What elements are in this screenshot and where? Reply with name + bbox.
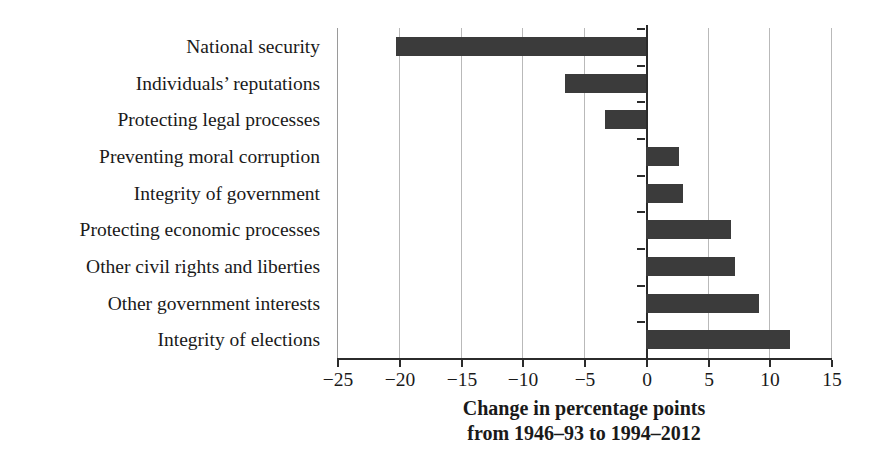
x-axis-title-line-2: from 1946–93 to 1994–2012 — [337, 421, 831, 446]
y-tick-mark — [637, 28, 645, 30]
x-tick-label: 15 — [802, 369, 862, 391]
x-tick-label: −10 — [493, 369, 553, 391]
bar — [646, 220, 731, 239]
category-label: Protecting legal processes — [0, 110, 320, 129]
x-tick-mark — [831, 360, 833, 367]
category-label-column: National securityIndividuals’ reputation… — [0, 28, 328, 358]
y-tick-mark — [637, 285, 645, 287]
y-tick-mark — [637, 101, 645, 103]
x-tick-label: −15 — [432, 369, 492, 391]
category-label: Other civil rights and liberties — [0, 257, 320, 276]
category-label: Integrity of elections — [0, 330, 320, 349]
x-tick-mark — [646, 360, 648, 367]
bar-chart-figure: National securityIndividuals’ reputation… — [0, 0, 873, 467]
y-tick-mark — [637, 248, 645, 250]
bar — [646, 147, 679, 166]
x-tick-label: −20 — [370, 369, 430, 391]
y-tick-mark — [637, 358, 645, 360]
category-label: Individuals’ reputations — [0, 74, 320, 93]
x-tick-label: −25 — [308, 369, 368, 391]
gridline — [831, 28, 832, 358]
x-tick-mark — [708, 360, 710, 367]
x-tick-mark — [522, 360, 524, 367]
x-tick-mark — [769, 360, 771, 367]
x-axis-title-line-1: Change in percentage points — [337, 396, 831, 421]
y-tick-mark — [637, 175, 645, 177]
x-tick-mark — [584, 360, 586, 367]
x-tick-mark — [399, 360, 401, 367]
gridline — [461, 28, 462, 358]
x-tick-label: 10 — [740, 369, 800, 391]
bar — [605, 110, 646, 129]
category-label: Other government interests — [0, 294, 320, 313]
x-axis-title: Change in percentage points from 1946–93… — [337, 396, 831, 446]
bar — [646, 294, 760, 313]
y-tick-mark — [637, 138, 645, 140]
gridline — [769, 28, 770, 358]
category-label: Preventing moral corruption — [0, 147, 320, 166]
category-label: Protecting economic processes — [0, 220, 320, 239]
y-tick-mark — [637, 321, 645, 323]
x-tick-mark — [461, 360, 463, 367]
category-label: National security — [0, 37, 320, 56]
bar — [646, 257, 735, 276]
gridline — [399, 28, 400, 358]
category-label: Integrity of government — [0, 184, 320, 203]
gridline — [337, 28, 338, 358]
x-tick-label: 5 — [679, 369, 739, 391]
y-tick-mark — [637, 211, 645, 213]
y-tick-mark — [637, 65, 645, 67]
bar — [396, 37, 645, 56]
bar — [646, 184, 683, 203]
x-tick-label: −5 — [555, 369, 615, 391]
bar — [565, 74, 645, 93]
gridline — [522, 28, 523, 358]
bar — [646, 330, 790, 349]
x-tick-label: 0 — [617, 369, 677, 391]
x-tick-mark — [337, 360, 339, 367]
plot-area — [337, 28, 831, 358]
